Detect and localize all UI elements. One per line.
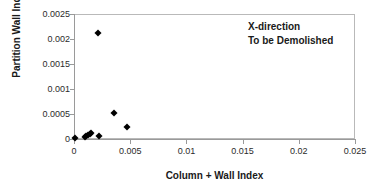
annotation-line-2: To be Demolished [248, 34, 333, 48]
x-tick-label: 0.005 [119, 146, 142, 156]
y-tick-label: 0.0005 [42, 109, 70, 119]
y-tick-label: 0.0025 [42, 9, 70, 19]
y-axis-line [74, 14, 75, 140]
x-tick-label: 0.02 [290, 146, 308, 156]
y-tick-label: 0.0015 [42, 59, 70, 69]
x-tick-label: 0.025 [344, 146, 367, 156]
x-tick [130, 140, 131, 144]
scatter-chart: 00.0050.010.0150.020.025 00.00050.0010.0… [0, 0, 392, 191]
data-point [71, 134, 78, 141]
x-tick [186, 140, 187, 144]
y-tick [70, 64, 74, 65]
x-tick-label: 0 [71, 146, 76, 156]
x-tick [243, 140, 244, 144]
x-tick [299, 140, 300, 144]
x-axis-line [74, 139, 356, 140]
y-tick [70, 89, 74, 90]
x-tick-label: 0.015 [231, 146, 254, 156]
x-axis-title: Column + Wall Index [74, 170, 355, 181]
y-tick-label: 0.002 [47, 34, 70, 44]
y-tick [70, 14, 74, 15]
chart-annotation: X-direction To be Demolished [248, 20, 333, 48]
y-tick [70, 39, 74, 40]
annotation-line-1: X-direction [248, 20, 333, 34]
y-tick-label: 0 [65, 134, 70, 144]
x-tick [355, 140, 356, 144]
y-tick [70, 114, 74, 115]
x-tick-label: 0.01 [178, 146, 196, 156]
y-tick-label: 0.001 [47, 84, 70, 94]
y-axis-title: Partition Wall Index [11, 0, 22, 92]
